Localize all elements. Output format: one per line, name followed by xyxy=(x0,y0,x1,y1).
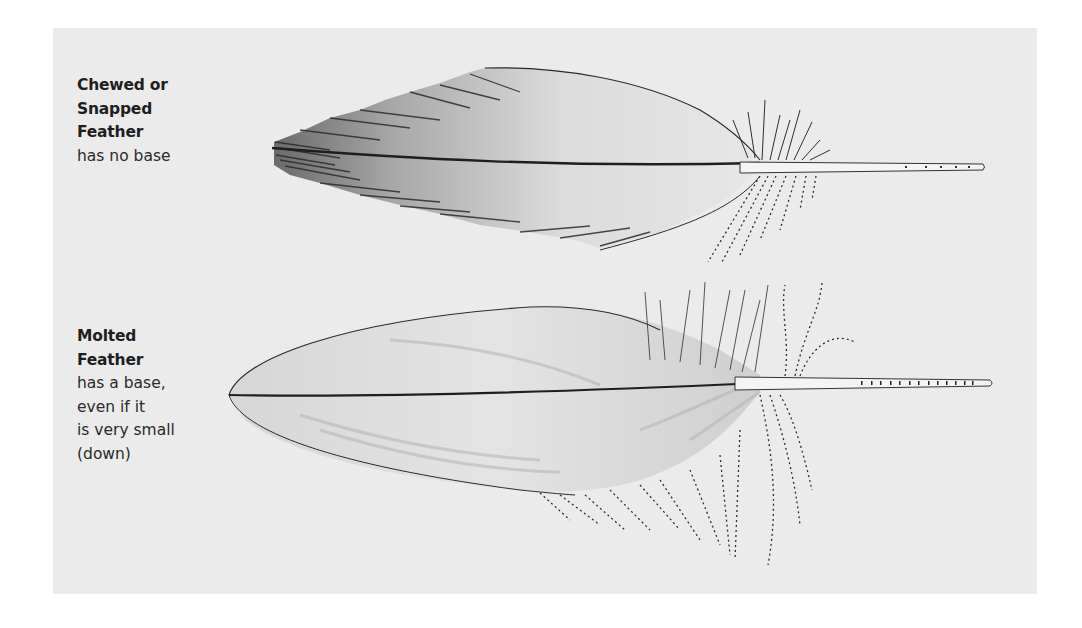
feather-broken-end-icon xyxy=(272,68,985,262)
feather-with-base-icon xyxy=(229,282,992,565)
